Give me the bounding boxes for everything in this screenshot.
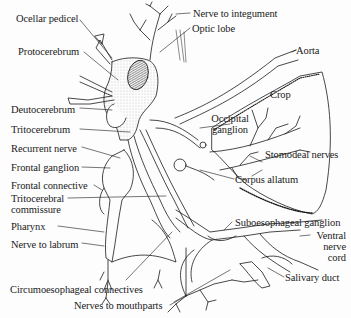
label-corpus-allatum: Corpus allatum: [235, 174, 298, 185]
label-pharynx: Pharynx: [11, 221, 45, 232]
label-frontal-connective: Frontal connective: [11, 180, 88, 191]
label-circumoesophageal-connectives: Circumoesophageal connectives: [10, 284, 143, 295]
label-nerve-to-labrum: Nerve to labrum: [11, 239, 78, 250]
label-ventral-nerve-cord-line3: cord: [300, 252, 346, 263]
label-nerves-to-mouthparts: Nerves to mouthparts: [74, 300, 162, 311]
label-occipital-ganglion-line1: Occipital: [206, 113, 254, 124]
label-ventral-nerve-cord-line1: Ventral: [300, 230, 346, 241]
anatomy-diagram: Ocellar pedicel Protocerebrum Deutocereb…: [0, 0, 351, 318]
label-stomodeal-nerves: Stomodeal nerves: [265, 149, 338, 160]
label-nerve-to-integument: Nerve to integument: [193, 8, 277, 19]
label-recurrent-nerve: Recurrent nerve: [11, 143, 77, 154]
label-suboesophageal-ganglion: Suboesophageal ganglion: [235, 217, 340, 228]
label-protocerebrum: Protocerebrum: [18, 46, 79, 57]
label-occipital-ganglion-line2: ganglion: [206, 124, 254, 135]
label-tritocerebral-commissure-line1: Tritocerebral: [11, 193, 64, 204]
label-tritocerebrum: Tritocerebrum: [11, 124, 70, 135]
label-tritocerebral-commissure-line2: commissure: [11, 204, 61, 215]
label-ocellar-pedicel: Ocellar pedicel: [16, 13, 78, 24]
label-crop: Crop: [270, 89, 291, 100]
label-frontal-ganglion: Frontal ganglion: [11, 162, 79, 173]
label-ventral-nerve-cord-line2: nerve: [300, 241, 346, 252]
label-aorta: Aorta: [296, 45, 319, 56]
label-optic-lobe: Optic lobe: [192, 23, 235, 34]
label-deutocerebrum: Deutocerebrum: [11, 104, 75, 115]
label-salivary-duct: Salivary duct: [285, 272, 339, 283]
